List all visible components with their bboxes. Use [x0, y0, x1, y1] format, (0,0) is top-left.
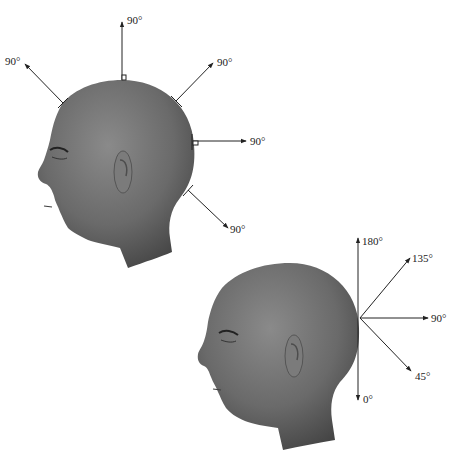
head-2-ear [285, 335, 303, 377]
head-1-ear [114, 151, 132, 193]
label-45: 45° [415, 370, 430, 382]
head-1-arrow-right: 90° [192, 134, 265, 150]
head-1-arrow-upper-left: 90° [5, 55, 68, 108]
label-90-right: 90° [250, 135, 265, 147]
head-2: 180° 135° 90° 45° 0° [198, 235, 447, 450]
label-135: 135° [412, 252, 433, 264]
label-90-upper-right: 90° [217, 56, 232, 68]
label-0: 0° [363, 393, 373, 405]
head-2-silhouette [198, 263, 359, 450]
label-90-top: 90° [127, 14, 142, 26]
label-90-upper-left: 90° [5, 55, 20, 67]
head-1-arrow-top: 90° [122, 14, 142, 80]
label-90: 90° [431, 312, 446, 324]
label-180: 180° [362, 235, 383, 247]
head-2-angle-fan: 180° 135° 90° 45° 0° [358, 235, 446, 405]
arrow-135 [360, 258, 410, 318]
label-90-lower-right: 90° [230, 223, 245, 235]
head-1-arrow-upper-right: 90° [171, 56, 232, 107]
figure: 90° 90° 90° 90° 90° [0, 0, 454, 452]
arrow-45 [360, 318, 411, 371]
head-1: 90° 90° 90° 90° 90° [5, 14, 265, 268]
head-1-arrow-lower-right: 90° [183, 185, 245, 235]
